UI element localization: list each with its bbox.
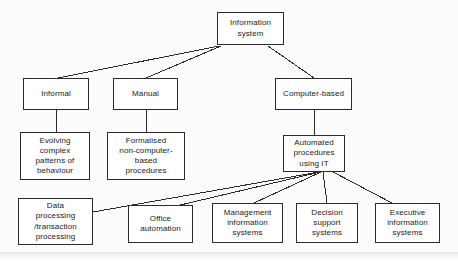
- node-label-evolving-complex-patterns-of-behaviour: Evolving complex patterns of behaviour: [21, 136, 89, 177]
- node-manual[interactable]: Manual: [113, 78, 178, 110]
- node-management-information-systems[interactable]: Management information systems: [212, 203, 283, 243]
- connector-automated-procedures-using-it-to-executive-information-systems: [333, 172, 392, 203]
- connector-automated-procedures-using-it-to-decision-support-systems: [323, 172, 327, 203]
- connector-information-system-to-computer-based: [268, 46, 314, 78]
- node-office-automation[interactable]: Office automation: [128, 205, 193, 243]
- node-label-data-processing-transaction-processing: Data processing /transaction processing: [19, 201, 92, 242]
- connector-automated-procedures-using-it-to-office-automation: [176, 172, 320, 206]
- node-label-executive-information-systems: Executive information systems: [376, 208, 439, 239]
- connector-information-system-to-informal: [58, 46, 219, 78]
- node-decision-support-systems[interactable]: Decision support systems: [296, 203, 358, 243]
- node-label-manual: Manual: [114, 89, 177, 99]
- node-label-computer-based: Computer-based: [276, 89, 351, 99]
- connector-automated-procedures-using-it-to-management-information-systems: [254, 172, 321, 203]
- node-evolving-complex-patterns-of-behaviour[interactable]: Evolving complex patterns of behaviour: [20, 132, 90, 180]
- node-label-informal: Informal: [24, 89, 88, 99]
- node-data-processing-transaction-processing[interactable]: Data processing /transaction processing: [18, 198, 93, 245]
- node-label-formalised-non-computer-based-procedures: Formalised non-computer- based procedure…: [108, 136, 184, 177]
- node-informal[interactable]: Informal: [23, 78, 89, 110]
- connector-information-system-to-manual: [146, 46, 221, 78]
- node-label-management-information-systems: Management information systems: [213, 208, 282, 239]
- node-computer-based[interactable]: Computer-based: [275, 78, 352, 110]
- node-label-automated-procedures-using-it: Automated procedures using IT: [284, 138, 344, 169]
- node-information-system[interactable]: Information system: [217, 12, 284, 45]
- node-automated-procedures-using-it[interactable]: Automated procedures using IT: [283, 135, 345, 172]
- node-label-information-system: Information system: [218, 18, 283, 38]
- node-label-decision-support-systems: Decision support systems: [297, 208, 357, 239]
- page-edge-shadow: [0, 252, 458, 258]
- node-executive-information-systems[interactable]: Executive information systems: [375, 203, 440, 243]
- diagram-canvas: Information systemInformalManualComputer…: [0, 0, 458, 261]
- node-formalised-non-computer-based-procedures[interactable]: Formalised non-computer- based procedure…: [107, 132, 185, 180]
- node-label-office-automation: Office automation: [129, 214, 192, 234]
